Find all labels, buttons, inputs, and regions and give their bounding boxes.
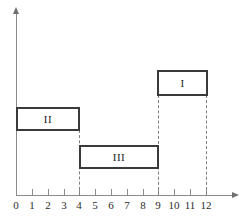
task-bar-II-label: II [44, 114, 52, 125]
x-tick-label-2: 2 [40, 199, 56, 212]
x-tick-label-11: 11 [182, 199, 198, 212]
x-tick-1 [32, 189, 33, 195]
x-tick-label-6: 6 [103, 199, 119, 212]
x-tick-label-7: 7 [119, 199, 135, 212]
x-tick-label-1: 1 [24, 199, 40, 212]
x-tick-6 [111, 189, 112, 195]
x-axis-arrow-icon [232, 192, 239, 198]
x-tick-0 [16, 189, 17, 195]
y-axis-arrow-icon [13, 7, 19, 14]
x-tick-label-10: 10 [166, 199, 182, 212]
task-bar-I[interactable]: I [157, 70, 208, 96]
x-tick-3 [64, 189, 65, 195]
dashed-guide-12 [206, 95, 207, 195]
x-tick-label-9: 9 [150, 199, 166, 212]
x-tick-label-8: 8 [135, 199, 151, 212]
x-tick-label-3: 3 [56, 199, 72, 212]
x-tick-label-5: 5 [87, 199, 103, 212]
y-axis-line [16, 13, 17, 196]
x-axis-line [16, 195, 235, 196]
x-tick-2 [48, 189, 49, 195]
gantt-chart: 0 1 2 3 4 5 6 7 8 9 10 11 12 I II III [0, 0, 249, 222]
task-bar-I-label: I [180, 78, 184, 89]
x-tick-label-0: 0 [8, 199, 24, 212]
x-tick-5 [95, 189, 96, 195]
x-tick-label-12: 12 [198, 199, 214, 212]
x-tick-11 [190, 189, 191, 195]
x-tick-7 [127, 189, 128, 195]
x-tick-8 [143, 189, 144, 195]
x-tick-label-4: 4 [71, 199, 87, 212]
x-tick-10 [174, 189, 175, 195]
task-bar-III[interactable]: III [79, 145, 159, 169]
task-bar-II[interactable]: II [16, 107, 80, 131]
task-bar-III-label: III [113, 152, 126, 163]
